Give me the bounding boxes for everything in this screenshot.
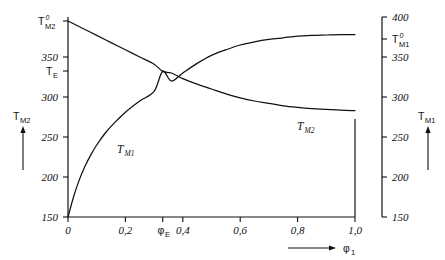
left-axis-name-main: T <box>13 110 20 122</box>
right-axis-ticks: 150 200 250 300 350 400 T 0 M1 <box>382 11 409 223</box>
bottom-axis-arrow-label: φ 1 <box>288 242 355 257</box>
plot-axes <box>68 17 382 217</box>
bottom-axis-ticks: 0 0,2 0,4 0,6 0,8 1,0 φ E <box>65 217 362 239</box>
left-label-TM2-zero: T 0 M2 <box>38 14 55 31</box>
curve-label-TM2-sub: M2 <box>304 126 315 135</box>
x-ticklabel-0-8: 0,8 <box>291 224 305 236</box>
left-ticklabel-350: 350 <box>41 51 59 63</box>
curve-T-M2 <box>68 21 355 111</box>
right-ticklabel-200: 200 <box>392 171 409 183</box>
right-ticklabel-150: 150 <box>392 211 409 223</box>
x-ticklabel-0-4: 0,4 <box>176 224 190 236</box>
left-axis-arrow-head <box>20 126 25 133</box>
right-axis-arrow-label: T M1 <box>418 110 435 170</box>
right-label-TM1-zero-main: T <box>392 33 399 45</box>
right-axis-arrow-head <box>425 126 430 133</box>
left-axis-name-sub: M2 <box>20 116 30 125</box>
right-axis-name-main: T <box>418 110 425 122</box>
x-ticklabel-0-2: 0,2 <box>119 224 133 236</box>
x-label-phiE: φ E <box>158 224 171 239</box>
right-label-TM1-zero-sup: 0 <box>400 32 404 39</box>
left-label-TE-sub: E <box>53 71 58 80</box>
left-ticklabel-200: 200 <box>42 171 59 183</box>
right-axis-name-sub: M1 <box>425 116 435 125</box>
phase-diagram-figure: 150 200 250 300 350 T E T 0 M2 T M2 150 <box>0 0 445 260</box>
right-ticklabel-350: 350 <box>391 51 409 63</box>
left-label-TM2-zero-main: T <box>38 15 45 27</box>
curve-label-TM1-sub: M1 <box>124 149 135 158</box>
right-ticklabel-400: 400 <box>392 11 409 23</box>
bottom-axis-arrow-head <box>329 245 336 250</box>
right-label-TM1-zero: T 0 M1 <box>392 32 409 49</box>
left-ticklabel-300: 300 <box>41 91 59 103</box>
curve-label-TM2: T M2 <box>297 120 315 135</box>
right-ticklabel-300: 300 <box>391 91 409 103</box>
x-ticklabel-1-0: 1,0 <box>348 224 362 236</box>
x-label-phiE-main: φ <box>158 224 165 236</box>
left-label-TE-main: T <box>46 65 53 77</box>
bottom-axis-name-sub: 1 <box>351 248 355 257</box>
left-label-TE: T E <box>46 65 58 80</box>
x-ticklabel-0: 0 <box>65 224 71 236</box>
left-axis-arrow-label: T M2 <box>13 110 30 170</box>
curve-label-TM1: T M1 <box>117 143 135 158</box>
x-ticklabel-0-6: 0,6 <box>233 224 247 236</box>
bottom-axis-name-main: φ <box>343 242 350 254</box>
left-ticklabel-150: 150 <box>42 211 59 223</box>
left-ticklabel-250: 250 <box>42 131 59 143</box>
right-ticklabel-250: 250 <box>392 131 409 143</box>
curve-layer <box>68 21 355 217</box>
right-label-TM1-zero-sub: M1 <box>399 40 409 49</box>
left-axis-ticks: 150 200 250 300 350 T E T 0 M2 <box>38 14 68 224</box>
left-label-TM2-zero-sub: M2 <box>45 22 55 31</box>
x-label-phiE-sub: E <box>165 230 170 239</box>
left-label-TM2-zero-sup: 0 <box>46 14 50 21</box>
